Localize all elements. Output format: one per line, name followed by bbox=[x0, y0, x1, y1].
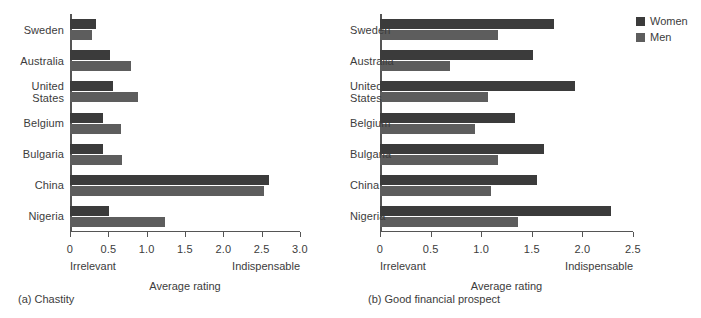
x-tick bbox=[223, 232, 224, 237]
category-label-nigeria: Nigeria bbox=[0, 210, 64, 222]
bar-united-states-women bbox=[70, 81, 113, 91]
legend: WomenMen bbox=[636, 14, 688, 46]
category-label-nigeria: Nigeria bbox=[350, 210, 374, 222]
bar-nigeria-women bbox=[380, 206, 611, 216]
bar-belgium-men bbox=[70, 124, 121, 134]
scale-low-label: Irrelevant bbox=[380, 260, 426, 272]
bar-china-men bbox=[380, 186, 491, 196]
x-tick-label: 0 bbox=[67, 243, 73, 255]
x-tick-label: 3.0 bbox=[292, 243, 308, 255]
plot-area-good-financial-prospect: 00.51.01.52.02.5 Irrelevant Indispensabl… bbox=[380, 14, 633, 232]
bar-sweden-women bbox=[70, 19, 96, 29]
plot-area-chastity: 00.51.01.52.02.53.0 Irrelevant Indispens… bbox=[70, 14, 300, 232]
x-tick bbox=[147, 232, 148, 237]
bar-nigeria-men bbox=[70, 217, 165, 227]
bar-bulgaria-women bbox=[380, 144, 544, 154]
category-label-united-states: United States bbox=[350, 80, 374, 104]
x-tick-label: 0.5 bbox=[100, 243, 116, 255]
x-tick bbox=[431, 232, 432, 237]
category-label-sweden: Sweden bbox=[350, 24, 374, 36]
bar-australia-women bbox=[380, 50, 533, 60]
bar-united-states-men bbox=[380, 92, 488, 102]
x-axis-title: Average rating bbox=[380, 280, 633, 292]
bar-belgium-men bbox=[380, 124, 475, 134]
square-swatch-icon bbox=[636, 33, 645, 42]
legend-item-women: Women bbox=[636, 14, 688, 28]
bar-sweden-men bbox=[380, 30, 498, 40]
category-label-belgium: Belgium bbox=[350, 117, 374, 129]
bar-bulgaria-women bbox=[70, 144, 103, 154]
x-tick-label: 1.5 bbox=[524, 243, 540, 255]
x-tick-label: 2.5 bbox=[254, 243, 270, 255]
x-tick bbox=[633, 232, 634, 237]
x-tick-label: 0.5 bbox=[423, 243, 439, 255]
x-tick bbox=[582, 232, 583, 237]
bar-belgium-women bbox=[380, 113, 515, 123]
x-tick bbox=[185, 232, 186, 237]
category-label-china: China bbox=[350, 179, 374, 191]
category-label-australia: Australia bbox=[350, 55, 374, 67]
bar-sweden-men bbox=[70, 30, 92, 40]
x-tick-label: 1.0 bbox=[473, 243, 489, 255]
category-label-united-states: United States bbox=[0, 80, 64, 104]
scale-low-label: Irrelevant bbox=[70, 260, 116, 272]
figure-two-panel-bar-charts: 00.51.01.52.02.53.0 Irrelevant Indispens… bbox=[0, 0, 701, 318]
legend-label: Men bbox=[650, 31, 671, 43]
bar-australia-women bbox=[70, 50, 110, 60]
bar-united-states-women bbox=[380, 81, 575, 91]
bar-bulgaria-men bbox=[70, 155, 122, 165]
x-tick bbox=[380, 232, 381, 237]
panel-chastity: 00.51.01.52.02.53.0 Irrelevant Indispens… bbox=[0, 0, 350, 318]
bar-nigeria-men bbox=[380, 217, 518, 227]
bar-sweden-women bbox=[380, 19, 554, 29]
legend-item-men: Men bbox=[636, 30, 688, 44]
x-tick bbox=[70, 232, 71, 237]
category-label-belgium: Belgium bbox=[0, 117, 64, 129]
x-axis-line bbox=[380, 231, 633, 233]
bar-nigeria-women bbox=[70, 206, 109, 216]
bar-china-women bbox=[380, 175, 537, 185]
panel-good-financial-prospect: 00.51.01.52.02.5 Irrelevant Indispensabl… bbox=[350, 0, 701, 318]
category-label-china: China bbox=[0, 179, 64, 191]
category-label-sweden: Sweden bbox=[0, 24, 64, 36]
x-tick bbox=[481, 232, 482, 237]
bar-china-men bbox=[70, 186, 264, 196]
x-tick-label: 1.5 bbox=[177, 243, 193, 255]
x-tick-label: 2.0 bbox=[215, 243, 231, 255]
bar-china-women bbox=[70, 175, 269, 185]
x-tick bbox=[108, 232, 109, 237]
bar-belgium-women bbox=[70, 113, 103, 123]
category-label-bulgaria: Bulgaria bbox=[0, 148, 64, 160]
bar-united-states-men bbox=[70, 92, 138, 102]
x-tick bbox=[300, 232, 301, 237]
x-tick-label: 2.5 bbox=[625, 243, 641, 255]
x-tick-label: 2.0 bbox=[574, 243, 590, 255]
x-tick-label: 1.0 bbox=[139, 243, 155, 255]
legend-label: Women bbox=[650, 15, 688, 27]
scale-high-label: Indispensable bbox=[232, 260, 300, 272]
category-label-australia: Australia bbox=[0, 55, 64, 67]
bar-australia-men bbox=[70, 61, 131, 71]
scale-high-label: Indispensable bbox=[565, 260, 633, 272]
square-swatch-icon bbox=[636, 17, 645, 26]
x-tick-label: 0 bbox=[377, 243, 383, 255]
x-tick bbox=[262, 232, 263, 237]
caption-panel-b: (b) Good financial prospect bbox=[368, 293, 500, 305]
category-label-bulgaria: Bulgaria bbox=[350, 148, 374, 160]
bar-bulgaria-men bbox=[380, 155, 498, 165]
x-tick bbox=[532, 232, 533, 237]
x-axis-title: Average rating bbox=[70, 280, 300, 292]
caption-panel-a: (a) Chastity bbox=[18, 293, 74, 305]
